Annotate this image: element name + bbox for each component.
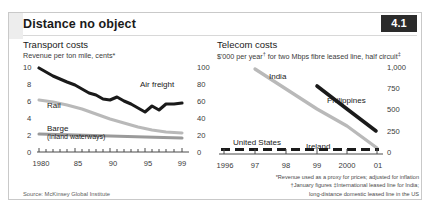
telecom-x-tick-1996: 1996 [211, 161, 239, 170]
series-label-united-states: United States [233, 138, 281, 147]
figure-card: Distance no object 4.1 Transport costs R… [8, 12, 422, 200]
transport-right-axis-tick-40: 40 [197, 114, 205, 123]
transport-left-axis-tick-4: 4 [27, 114, 31, 123]
series-label-rail: Rail [47, 101, 61, 110]
telecom-x-tick-98: 98 [277, 161, 295, 170]
figure-header: Distance no object 4.1 [9, 13, 421, 39]
telecom-x-tick-01: 01 [369, 161, 387, 170]
header-divider [23, 35, 417, 36]
transport-x-axis-ticks [39, 148, 182, 152]
transport-chart-subtitle: Revenue per ton mile, cents* [23, 51, 115, 60]
series-label-ireland: Ireland [306, 142, 330, 151]
page-title: Distance no object [23, 17, 136, 31]
telecom-y-tick-250: 250 [387, 127, 400, 136]
series-label-barge-sublabel: (inland waterways) [47, 133, 105, 140]
series-label-air-freight: Air freight [140, 80, 174, 89]
series-label-barge: Barge [47, 124, 68, 133]
chart-panel-telecom-costs: Telecom costs $'000 per year† for two Mb… [217, 39, 419, 199]
transport-x-tick-85: 85 [69, 159, 87, 168]
transport-left-axis-tick-6: 6 [27, 97, 31, 106]
telecom-subtitle-mid: for two Mbps fibre leased line, half cir… [266, 52, 398, 61]
telecom-y-tick-1000: 1,000 [387, 63, 406, 72]
transport-right-axis-tick-80: 80 [197, 80, 205, 89]
telecom-chart-title: Telecom costs [217, 39, 277, 50]
transport-chart-title: Transport costs [23, 39, 88, 50]
series-label-india: India [269, 72, 286, 81]
chart-source-note: Source: McKinsey Global Institute [23, 191, 110, 197]
transport-right-axis-tick-100: 100 [197, 63, 210, 72]
transport-x-tick-90: 90 [104, 159, 122, 168]
telecom-y-tick-750: 750 [387, 84, 400, 93]
transport-x-tick-1980: 1980 [27, 159, 55, 168]
figure-number-badge: 4.1 [381, 15, 417, 32]
transport-right-axis-tick-60: 60 [197, 97, 205, 106]
transport-right-axis-tick-20: 20 [197, 131, 205, 140]
telecom-y-tick-0: 0 [387, 148, 391, 157]
telecom-chart-subtitle: $'000 per year† for two Mbps fibre lease… [217, 51, 401, 61]
transport-x-tick-99: 99 [173, 159, 191, 168]
telecom-subtitle-pre: $'000 per year [217, 52, 263, 61]
telecom-x-tick-97: 97 [246, 161, 264, 170]
transport-right-axis-tick-0: 0 [197, 148, 201, 157]
transport-left-axis-tick-0: 0 [27, 148, 31, 157]
transport-plot-area [37, 65, 195, 157]
telecom-x-tick-2000: 2000 [333, 161, 361, 170]
chart-footnote: *Revenue used as a proxy for prices; adj… [276, 173, 419, 198]
chart-panel-transport-costs: Transport costs Revenue per ton mile, ce… [23, 39, 215, 199]
transport-left-axis-tick-10: 10 [23, 63, 31, 72]
telecom-y-tick-500: 500 [387, 105, 400, 114]
series-label-philippines: Philippines [327, 96, 366, 105]
telecom-subtitle-doubledagger: ‡ [398, 51, 401, 57]
transport-x-tick-95: 95 [139, 159, 157, 168]
transport-left-axis-tick-2: 2 [27, 131, 31, 140]
telecom-x-tick-99: 99 [308, 161, 326, 170]
transport-left-axis-tick-8: 8 [27, 80, 31, 89]
